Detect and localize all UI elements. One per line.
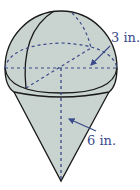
sphere-body: [5, 11, 117, 97]
radius-label: 3 in.: [111, 30, 140, 45]
height-label: 6 in.: [87, 133, 116, 148]
sphere-cone-diagram: 3 in. 6 in.: [0, 0, 140, 190]
